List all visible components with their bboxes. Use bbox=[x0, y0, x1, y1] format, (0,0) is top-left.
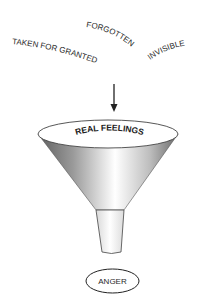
output-node: ANGER bbox=[86, 269, 139, 293]
input-label-invisible: INVISIBLE bbox=[146, 39, 185, 62]
funnel-neck bbox=[96, 210, 124, 254]
input-label-forgotten: FORGOTTEN bbox=[86, 20, 136, 48]
output-label: ANGER bbox=[98, 277, 127, 286]
funnel bbox=[38, 120, 178, 254]
funnel-diagram: TAKEN FOR GRANTED FORGOTTEN INVISIBLE RE… bbox=[0, 0, 200, 305]
down-arrow-icon bbox=[111, 84, 118, 112]
input-label-taken-for-granted: TAKEN FOR GRANTED bbox=[12, 37, 99, 65]
